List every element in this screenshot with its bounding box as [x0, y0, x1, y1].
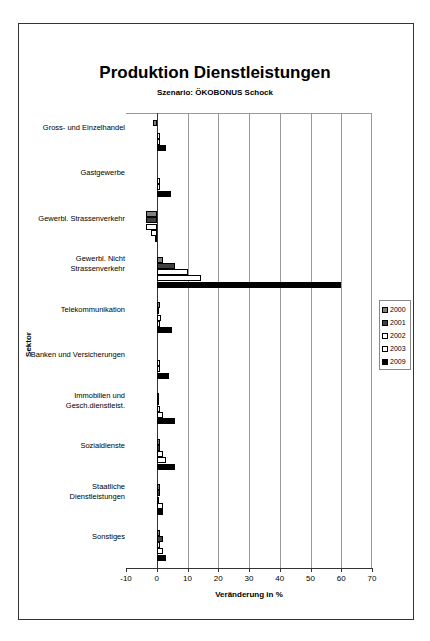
bar-2000	[157, 530, 160, 536]
bar-2003	[157, 366, 160, 372]
x-tick-label: 30	[234, 574, 264, 583]
chart-title: Produktion Dienstleistungen	[0, 63, 430, 83]
category-label-line: Gewerbl. Nicht	[5, 254, 125, 264]
x-tick-label: 50	[296, 574, 326, 583]
bar-2003	[157, 321, 160, 327]
legend-item: 2003	[382, 342, 408, 355]
x-tick	[280, 568, 281, 572]
bar-2000	[157, 302, 160, 308]
category-label: Gewerbl. NichtStrassenverkehr	[5, 254, 125, 274]
bar-2009	[155, 236, 157, 242]
x-tick-label: 10	[173, 574, 203, 583]
x-tick-label: 70	[357, 574, 387, 583]
bar-2009	[157, 418, 175, 424]
category-label-line: Sonstiges	[5, 532, 125, 542]
legend-swatch-icon	[382, 346, 388, 352]
bar-2001	[157, 399, 159, 405]
category-label: Gewerbl. Strassenverkehr	[5, 214, 125, 224]
bar-2009	[157, 464, 175, 470]
x-tick-label: 0	[142, 574, 172, 583]
bar-2003	[157, 139, 160, 145]
category-label: Sozialdienste	[5, 441, 125, 451]
bar-2002	[157, 178, 160, 184]
x-tick	[372, 568, 373, 572]
legend-swatch-icon	[382, 333, 388, 339]
category-label-line: Strassenverkehr	[5, 264, 125, 274]
legend-item: 2002	[382, 329, 408, 342]
x-tick-label: 40	[265, 574, 295, 583]
bar-2003	[157, 548, 163, 554]
bar-2000	[157, 257, 163, 263]
category-label: Immobilien undGesch.dienstleist.	[5, 391, 125, 411]
bar-2009	[157, 191, 171, 197]
bar-2003	[157, 412, 163, 418]
bar-2003	[151, 230, 157, 236]
category-label-line: Gastgewerbe	[5, 168, 125, 178]
x-tick	[311, 568, 312, 572]
x-axis-title: Veränderung in %	[126, 590, 372, 599]
category-label-line: Sozialdienste	[5, 441, 125, 451]
bar-2001	[157, 445, 160, 451]
x-tick	[249, 568, 250, 572]
bar-2003	[157, 503, 163, 509]
category-label: StaatlicheDienstleistungen	[5, 482, 125, 502]
bar-2001	[157, 536, 163, 542]
category-label: Gross- und Einzelhandel	[5, 123, 125, 133]
bar-2000	[157, 484, 160, 490]
category-label-line: Immobilien und	[5, 391, 125, 401]
category-label-line: Gewerbl. Strassenverkehr	[5, 214, 125, 224]
x-tick	[218, 568, 219, 572]
category-label-line: Dienstleistungen	[5, 492, 125, 502]
bar-2001	[157, 263, 175, 269]
bar-2002	[146, 224, 157, 230]
gridline	[341, 114, 342, 568]
bar-2009	[157, 509, 163, 515]
category-label-line: Telekommunikation	[5, 305, 125, 315]
x-tick	[188, 568, 189, 572]
bar-2001	[146, 217, 157, 223]
gridline	[218, 114, 219, 568]
x-tick	[341, 568, 342, 572]
gridline	[280, 114, 281, 568]
bar-2002	[157, 360, 160, 366]
legend-swatch-icon	[382, 307, 388, 313]
bar-2000	[153, 120, 157, 126]
bar-2003	[157, 275, 202, 281]
bar-2000	[146, 211, 157, 217]
bar-2002	[157, 133, 160, 139]
bar-2009	[157, 555, 166, 561]
bar-2002	[157, 406, 160, 412]
category-label: Telekommunikation	[5, 305, 125, 315]
legend-label: 2000	[390, 306, 406, 313]
gridline	[311, 114, 312, 568]
gridline	[188, 114, 189, 568]
bar-2002	[157, 542, 160, 548]
legend-swatch-icon	[382, 359, 388, 365]
category-label-line: Banken und Versicherungen	[5, 350, 125, 360]
bar-2002	[157, 451, 163, 457]
legend: 20002001200220032009	[379, 300, 411, 370]
gridline	[249, 114, 250, 568]
x-tick-label: 20	[203, 574, 233, 583]
x-tick-label: 60	[326, 574, 356, 583]
bar-2002	[157, 315, 162, 321]
bar-2003	[157, 184, 160, 190]
category-label-line: Staatliche	[5, 482, 125, 492]
category-label-line: Gross- und Einzelhandel	[5, 123, 125, 133]
bar-2003	[157, 457, 166, 463]
bar-2002	[157, 497, 159, 503]
legend-item: 2000	[382, 303, 408, 316]
x-tick-label: -10	[111, 574, 141, 583]
x-tick	[126, 568, 127, 572]
category-label: Gastgewerbe	[5, 168, 125, 178]
category-label: Sonstiges	[5, 532, 125, 542]
bar-2000	[157, 393, 159, 399]
bar-2001	[157, 308, 159, 314]
legend-label: 2001	[390, 319, 406, 326]
category-label-line: Gesch.dienstleist.	[5, 401, 125, 411]
category-label: Banken und Versicherungen	[5, 350, 125, 360]
legend-label: 2009	[390, 358, 406, 365]
chart-subtitle: Szenario: ÖKOBONUS Schock	[0, 88, 430, 97]
x-tick	[157, 568, 158, 572]
bar-2002	[157, 269, 188, 275]
